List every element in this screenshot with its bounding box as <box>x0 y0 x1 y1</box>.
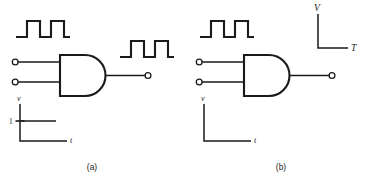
vt-axes-a <box>20 104 67 141</box>
panel-a: v 1 t (a) <box>9 21 174 172</box>
input-terminal-1-a[interactable] <box>12 59 18 65</box>
circuit-figure: v 1 t (a) V T <box>0 0 368 182</box>
and-gate-a <box>60 55 106 96</box>
caption-a: (a) <box>87 162 98 172</box>
caption-b: (b) <box>276 162 287 172</box>
input-terminal-1-b[interactable] <box>196 59 202 65</box>
input-waveform-a <box>16 21 70 37</box>
output-vt-axes-b <box>318 14 348 48</box>
input-terminal-2-a[interactable] <box>12 79 18 85</box>
panel-b: V T v t (b) <box>196 3 357 172</box>
figure-container: v 1 t (a) V T <box>0 0 368 182</box>
output-terminal-a[interactable] <box>145 73 151 79</box>
t-axis-label-b: t <box>254 136 257 145</box>
V-axis-label-b: V <box>314 3 321 13</box>
vt-axes-b <box>204 104 251 141</box>
output-terminal-b[interactable] <box>329 73 335 79</box>
input-terminal-2-b[interactable] <box>196 79 202 85</box>
t-axis-label-a: t <box>70 136 73 145</box>
v-axis-label-b: v <box>201 94 205 103</box>
input-waveform-b <box>200 21 254 37</box>
T-axis-label-b: T <box>351 43 357 53</box>
level-value-label-a: 1 <box>9 117 13 126</box>
v-axis-label-a: v <box>17 94 21 103</box>
and-gate-b <box>244 55 290 96</box>
output-waveform-a <box>120 41 174 57</box>
